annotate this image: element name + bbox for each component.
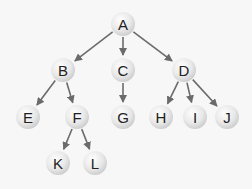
edge-f-k <box>64 129 72 149</box>
node-c: C <box>111 58 135 82</box>
node-l: L <box>83 151 107 175</box>
edge-a-d <box>133 32 172 61</box>
node-e: E <box>16 105 40 129</box>
node-label: H <box>156 109 167 126</box>
node-label: F <box>72 109 81 126</box>
edge-a-b <box>75 32 113 61</box>
node-i: I <box>183 105 207 129</box>
node-label: I <box>193 109 197 126</box>
node-a: A <box>111 12 135 36</box>
node-b: B <box>51 58 75 82</box>
node-label: K <box>53 155 63 172</box>
node-d: D <box>172 58 196 82</box>
tree-canvas: ABCDEFGHIJKL <box>0 0 252 189</box>
edge-f-l <box>82 129 90 149</box>
tree-diagram: ABCDEFGHIJKL <box>0 0 252 189</box>
node-label: J <box>223 109 231 126</box>
node-label: D <box>179 62 190 79</box>
node-k: K <box>46 151 70 175</box>
node-label: C <box>118 62 129 79</box>
node-f: F <box>65 105 89 129</box>
edge-d-h <box>168 82 179 104</box>
node-j: J <box>215 105 239 129</box>
node-label: G <box>117 109 129 126</box>
edge-d-i <box>187 83 192 103</box>
edge-d-j <box>193 80 217 106</box>
node-label: B <box>58 62 68 79</box>
edges-layer <box>37 32 217 149</box>
node-label: L <box>91 155 99 172</box>
node-label: E <box>23 109 33 126</box>
edge-b-e <box>37 80 55 105</box>
edge-b-f <box>67 82 73 102</box>
node-h: H <box>149 105 173 129</box>
node-g: G <box>111 105 135 129</box>
node-label: A <box>118 16 128 33</box>
